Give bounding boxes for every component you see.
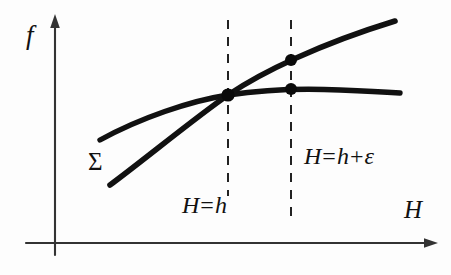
f-axis-label: f [26,22,34,49]
rising-curve-point [285,54,297,66]
sigma-curve-label: Σ [88,149,103,174]
h-eps-rhs: h [337,143,349,169]
H-axis-label: H [404,197,422,222]
h-eq-h-lhs: H [182,192,199,218]
h-eps-plus-operator: + [349,143,365,169]
h-equals-h-plus-epsilon-label: H=h+ε [304,144,374,168]
h-equals-h-label: H=h [182,193,227,217]
sigma-curve-point [285,83,297,95]
h-eps-equals-operator: = [321,143,337,169]
figure-canvas [0,0,451,275]
h-eq-h-rhs: h [215,192,227,218]
H-axis-arrowhead [424,238,438,248]
h-eq-h-operator: = [199,192,215,218]
f-axis-group [50,14,60,255]
f-axis-arrowhead [50,14,60,28]
H-axis-group [26,238,438,248]
figure-container: f Σ H=h H=h+ε H [0,0,451,275]
h-eps-lhs: H [304,143,321,169]
intersection-point [221,88,234,101]
epsilon-symbol: ε [364,143,373,169]
sigma-curve [100,89,400,140]
